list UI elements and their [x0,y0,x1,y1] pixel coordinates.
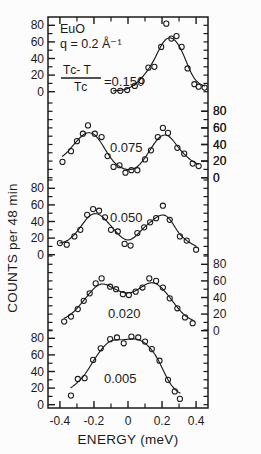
data-point [160,125,165,130]
right-tick-label: 60 [213,274,227,288]
left-tick-label: 0 [37,248,44,262]
figure-panel: -0.4-0.200.20.4ENERGY (meV)0204060800204… [0,0,261,454]
data-point [129,168,134,173]
right-tick-label: 80 [213,104,227,118]
data-point [153,278,158,283]
data-point [96,208,101,213]
ratio-numerator: Tᴄ- T [63,63,91,77]
data-point [108,227,113,232]
left-tick-label: 60 [31,35,45,49]
data-point [196,84,201,89]
data-point [85,123,90,128]
left-tick-label: 60 [31,348,45,362]
right-tick-label: 60 [213,121,227,135]
spectrum-trace [68,334,182,401]
data-point [147,276,152,281]
sample-label: EuO [60,22,85,36]
left-tick-label: 40 [31,215,45,229]
x-tick-label: -0.2 [84,414,105,428]
data-point [123,170,128,175]
data-point [62,319,67,324]
trace-label: 0.050 [110,210,143,225]
x-tick-label: 0.4 [188,414,205,428]
left-axis: 020406080020406080020406080 [31,18,55,411]
data-point [99,134,104,139]
data-point [64,242,69,247]
data-point [128,243,133,248]
trace-label: 0.005 [104,371,137,386]
right-tick-label: 80 [213,257,227,271]
data-point [177,396,182,401]
right-axis: 020406080020406080020406080 [201,25,227,404]
data-point [68,393,73,398]
trace-label: 0.020 [108,306,141,321]
data-point [60,159,65,164]
data-point [121,341,126,346]
data-point [68,149,73,154]
left-tick-label: 80 [31,18,45,32]
data-point [165,130,170,135]
right-tick-label: 40 [213,291,227,305]
data-point [93,281,98,286]
data-point [75,376,80,381]
right-tick-label: 0 [213,171,220,185]
left-tick-label: 80 [31,181,45,195]
y-axis-label: COUNTS per 48 min [5,183,20,313]
right-tick-label: 20 [213,307,227,321]
annotations: EuOq = 0.2 Å⁻¹Tᴄ- TTᴄ=0.1500.0750.0500.0… [60,22,144,386]
trace-label: 0.075 [110,140,143,155]
left-tick-label: 0 [37,85,44,99]
left-tick-label: 40 [31,52,45,66]
data-point [85,212,90,217]
data-point [99,276,104,281]
data-point [135,168,140,173]
left-tick-label: 0 [37,398,44,412]
data-point [82,376,87,381]
data-point [152,64,157,69]
right-tick-label: 20 [213,154,227,168]
data-point [160,203,165,208]
left-tick-label: 40 [31,365,45,379]
left-tick-label: 80 [31,331,45,345]
right-tick-label: 40 [213,138,227,152]
data-point [164,21,169,26]
left-tick-label: 20 [31,231,45,245]
data-point [122,241,127,246]
x-tick-label: 0 [125,414,132,428]
ratio-value: =0.150 [104,74,144,89]
x-tick-label: -0.4 [50,414,71,428]
data-point [91,206,96,211]
left-tick-label: 20 [31,381,45,395]
x-tick-label: 0.2 [154,414,171,428]
right-tick-label: 0 [213,324,220,338]
x-axis-label: ENERGY (meV) [78,432,179,447]
left-tick-label: 20 [31,68,45,82]
spectra-plot: -0.4-0.200.20.4ENERGY (meV)0204060800204… [0,0,261,454]
data-point [111,164,116,169]
data-point [190,321,195,326]
data-point [193,247,198,252]
data-point [174,33,179,38]
left-tick-label: 60 [31,198,45,212]
q-label: q = 0.2 Å⁻¹ [60,36,122,51]
ratio-denominator: Tᴄ [74,80,87,94]
